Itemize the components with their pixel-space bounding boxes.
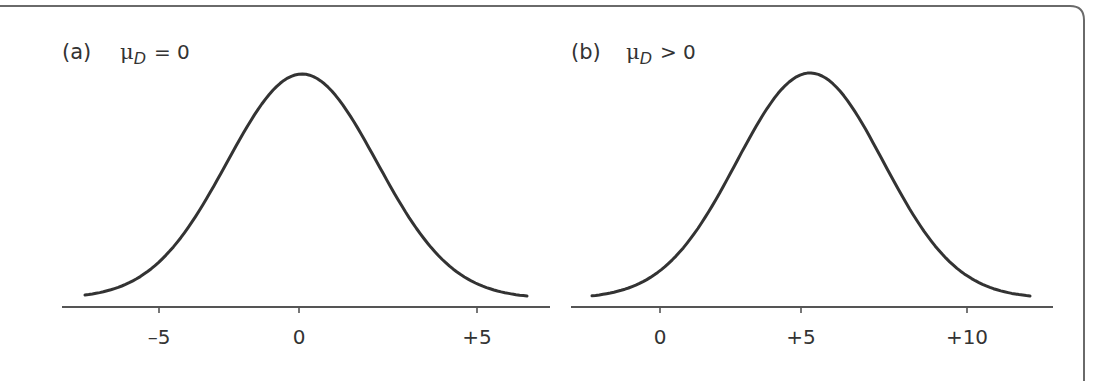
panel-b-label: (b)	[571, 40, 601, 64]
x-ticks-a: –50+5	[148, 307, 492, 349]
mu-symbol: μ	[120, 40, 134, 64]
x-tick-label: +5	[786, 325, 815, 349]
x-tick-label: +10	[946, 325, 988, 349]
panel-a-label: (a)	[62, 40, 91, 64]
x-tick-label: –5	[148, 325, 171, 349]
mu-subscript: D	[640, 49, 652, 68]
normal-curve-a	[85, 74, 527, 296]
x-tick-label: 0	[654, 325, 667, 349]
mu-relation: = 0	[154, 40, 190, 64]
panel-a: (a) μD= 0 –50+5	[62, 40, 550, 349]
x-ticks-b: 0+5+10	[654, 307, 988, 349]
mu-symbol: μ	[626, 40, 640, 64]
figure: (a) μD= 0 –50+5 (b) μD> 0 0+5+10	[0, 0, 1114, 381]
normal-curve-b	[592, 73, 1030, 296]
panel-b-annotation: μD> 0	[626, 40, 696, 68]
x-tick-label: 0	[293, 325, 306, 349]
panel-a-annotation: μD= 0	[120, 40, 190, 68]
mu-subscript: D	[134, 49, 146, 68]
mu-relation: > 0	[660, 40, 696, 64]
panel-b: (b) μD> 0 0+5+10	[571, 40, 1053, 349]
x-tick-label: +5	[462, 325, 491, 349]
